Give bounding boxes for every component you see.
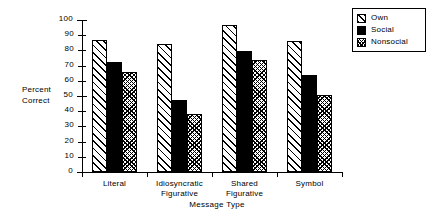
bar-nonsocial-symbol: [317, 95, 332, 172]
y-axis-tick: 40: [78, 111, 86, 112]
legend-label-own: Own: [371, 13, 388, 23]
y-axis-tick: 100: [77, 20, 87, 21]
x-axis-label-line: Figurative: [195, 189, 295, 199]
x-axis-tick: [82, 172, 83, 177]
legend-item-social: Social: [357, 24, 421, 36]
bar-own-idiosyncratic-figurative: [157, 44, 172, 172]
bar-nonsocial-idiosyncratic-figurative: [187, 114, 202, 172]
y-axis-tick: 90: [78, 35, 86, 36]
x-axis-label-symbol: Symbol: [260, 179, 360, 189]
bar-social-shared-figurative: [237, 51, 252, 172]
y-axis-tick: 10: [78, 157, 86, 158]
legend-swatch-nonsocial-icon: [357, 38, 366, 47]
y-axis-tick-label: 0: [68, 166, 73, 176]
y-axis-tick-label: 50: [64, 90, 74, 100]
legend-swatch-own-icon: [357, 14, 366, 23]
bar-own-symbol: [287, 41, 302, 172]
y-axis-tick-label: 60: [65, 75, 75, 85]
bar-own-shared-figurative: [222, 25, 237, 172]
legend-item-own: Own: [357, 12, 421, 24]
bar-own-literal: [92, 40, 107, 172]
y-axis-tick-label: 70: [65, 60, 75, 70]
bar-chart-figure: Percent Correct 0102030405060708090100 L…: [0, 0, 434, 218]
y-axis-tick-label: 90: [65, 29, 75, 39]
x-axis-label-line: Symbol: [260, 179, 360, 189]
y-axis-tick: 60: [78, 81, 86, 82]
legend: Own Social Nonsocial: [352, 8, 426, 52]
y-axis-tick: 20: [78, 142, 86, 143]
y-axis-tick: 80: [78, 50, 86, 51]
x-axis-tick: [212, 172, 213, 177]
y-axis-tick-label: 100: [59, 14, 73, 24]
y-axis-tick: 50: [77, 96, 87, 97]
legend-label-nonsocial: Nonsocial: [371, 37, 408, 47]
y-axis-tick-label: 30: [65, 120, 75, 130]
bar-nonsocial-literal: [122, 72, 137, 172]
y-axis-tick: 70: [78, 66, 86, 67]
legend-label-social: Social: [371, 25, 394, 35]
x-axis-tick: [342, 172, 343, 177]
bar-social-symbol: [302, 75, 317, 172]
x-axis-tick: [277, 172, 278, 177]
legend-swatch-social-icon: [357, 26, 366, 35]
x-axis-tick: [147, 172, 148, 177]
legend-item-nonsocial: Nonsocial: [357, 36, 421, 48]
y-axis-tick-label: 80: [65, 44, 75, 54]
bar-social-literal: [107, 62, 122, 172]
plot-area: 0102030405060708090100: [82, 20, 342, 173]
bar-social-idiosyncratic-figurative: [172, 100, 187, 172]
y-axis-tick-label: 40: [65, 105, 75, 115]
y-axis-tick-label: 20: [65, 136, 75, 146]
x-axis-title: Message Type: [0, 200, 434, 209]
y-axis-tick: 30: [78, 126, 86, 127]
bar-nonsocial-shared-figurative: [252, 60, 267, 172]
y-axis-tick-label: 10: [65, 151, 75, 161]
